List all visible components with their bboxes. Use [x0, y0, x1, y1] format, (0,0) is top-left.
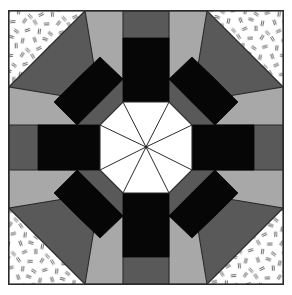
center-point: [145, 146, 148, 149]
quilt-block-figure: Symmetrical eight-pointed star quilt blo…: [0, 0, 292, 295]
black-square-north: [123, 38, 169, 102]
black-square-west: [38, 125, 102, 170]
black-square-south: [123, 193, 169, 257]
black-square-east: [190, 125, 254, 170]
pattern-canvas: Symmetrical eight-pointed star quilt blo…: [0, 0, 292, 295]
